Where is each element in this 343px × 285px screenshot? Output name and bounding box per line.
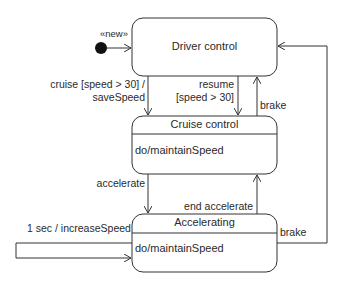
label-resume-line2: [speed > 30] xyxy=(176,91,234,103)
label-end-accelerate: end accelerate xyxy=(184,200,253,212)
label-cruise-line2: saveSpeed xyxy=(92,91,145,103)
transition-self-loop-arrow xyxy=(16,243,132,258)
label-brake-lower: brake xyxy=(280,226,306,238)
initial-stereotype-label: «new» xyxy=(100,28,128,40)
initial-state-dot xyxy=(95,42,107,54)
state-accelerating-title: Accelerating xyxy=(132,216,277,228)
label-self-loop: 1 sec / increaseSpeed xyxy=(27,222,131,234)
state-cruise-control-activity: do/maintainSpeed xyxy=(135,144,224,156)
label-brake-upper: brake xyxy=(260,99,286,111)
state-accelerating-activity: do/maintainSpeed xyxy=(135,242,224,254)
label-resume-line1: resume xyxy=(199,78,234,90)
label-cruise-line1: cruise [speed > 30] / xyxy=(50,78,145,90)
state-cruise-control-title: Cruise control xyxy=(132,118,277,130)
transition-brake-loop-arrow xyxy=(277,46,327,243)
state-driver-control-title: Driver control xyxy=(132,40,277,52)
label-accelerate: accelerate xyxy=(97,177,145,189)
